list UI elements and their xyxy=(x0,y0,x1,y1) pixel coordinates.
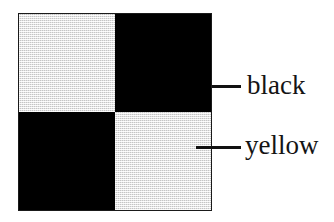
annotation-label-black: black xyxy=(247,72,305,99)
checkerboard-square xyxy=(18,13,212,211)
leader-line-black xyxy=(212,85,241,88)
checkerboard-figure: black yellow xyxy=(0,0,334,222)
annotation-label-yellow: yellow xyxy=(245,132,319,159)
quadrant-bottom-right-yellow xyxy=(115,112,211,210)
quadrant-top-right-black xyxy=(115,14,211,112)
quadrant-bottom-left-black xyxy=(19,112,115,210)
leader-line-yellow xyxy=(196,146,241,149)
quadrant-top-left-yellow xyxy=(19,14,115,112)
